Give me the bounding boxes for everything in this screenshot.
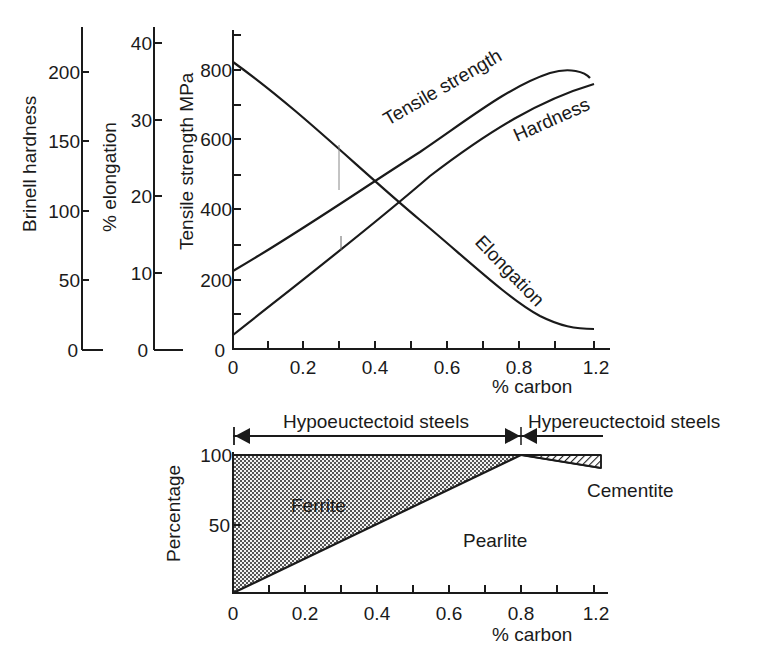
lower-x-tick-0.8: 0.8 <box>508 603 534 624</box>
brinell-tick-0: 0 <box>67 340 78 361</box>
upper-x-axis <box>233 341 610 349</box>
tensile-tick-800: 800 <box>200 60 232 81</box>
tensile-strength-label: Tensile strength <box>380 45 506 130</box>
brinell-axis-title: Brinell hardness <box>19 96 40 232</box>
upper-x-tick-0.2: 0.2 <box>290 357 316 378</box>
upper-x-tick-0.8: 0.8 <box>506 357 532 378</box>
lower-x-tick-0: 0 <box>228 603 239 624</box>
lower-y-tick-100: 100 <box>200 445 232 466</box>
lower-y-axis-title: Percentage <box>163 465 184 562</box>
upper-x-tick-0.4: 0.4 <box>362 357 389 378</box>
elongation-axis-title: % elongation <box>99 122 120 232</box>
elong-tick-30: 30 <box>131 110 152 131</box>
tensile-tick-600: 600 <box>200 129 232 150</box>
ferrite-label: Ferrite <box>291 495 346 516</box>
brinell-tick-150: 150 <box>48 131 80 152</box>
brinell-tick-200: 200 <box>48 62 80 83</box>
steel-properties-figure: 0 50 100 150 200 Brinell hardness 0 10 2… <box>0 0 758 664</box>
cementite-label: Cementite <box>587 480 674 501</box>
tensile-axis-title: Tensile strength MPa <box>176 72 197 250</box>
upper-x-axis-title: % carbon <box>492 376 572 397</box>
lower-x-tick-0.2: 0.2 <box>292 603 318 624</box>
tensile-tick-400: 400 <box>200 199 232 220</box>
tensile-axis <box>233 30 241 350</box>
brinell-tick-100: 100 <box>48 201 80 222</box>
hypo-right-arrowhead-icon <box>505 428 520 444</box>
upper-x-tick-0.6: 0.6 <box>434 357 460 378</box>
lower-x-tick-1.2: 1.2 <box>583 603 609 624</box>
upper-x-tick-0: 0 <box>228 357 239 378</box>
elong-tick-10: 10 <box>131 263 152 284</box>
tensile-tick-0: 0 <box>214 340 225 361</box>
lower-y-tick-50: 50 <box>209 515 230 536</box>
elong-tick-40: 40 <box>131 33 152 54</box>
tensile-tick-200: 200 <box>200 270 232 291</box>
lower-chart: 100 50 Percentage 0 0.2 0.4 0.6 0.8 1.2 … <box>163 411 720 645</box>
brinell-tick-50: 50 <box>59 270 80 291</box>
hardness-label: Hardness <box>510 93 593 145</box>
elongation-label: Elongation <box>471 231 548 310</box>
lower-x-tick-0.6: 0.6 <box>436 603 462 624</box>
hypereutectoid-label: Hypereuctectoid steels <box>528 411 720 432</box>
elong-tick-0: 0 <box>137 340 148 361</box>
hypo-left-arrowhead-icon <box>235 428 250 444</box>
lower-x-tick-0.4: 0.4 <box>364 603 391 624</box>
upper-x-tick-1.2: 1.2 <box>583 357 609 378</box>
hypoeutectoid-label: Hypoeuctectoid steels <box>283 411 469 432</box>
upper-chart: 0 50 100 150 200 Brinell hardness 0 10 2… <box>19 27 610 397</box>
lower-x-axis-title: % carbon <box>492 624 572 645</box>
pearlite-label: Pearlite <box>463 530 527 551</box>
elong-tick-20: 20 <box>131 186 152 207</box>
